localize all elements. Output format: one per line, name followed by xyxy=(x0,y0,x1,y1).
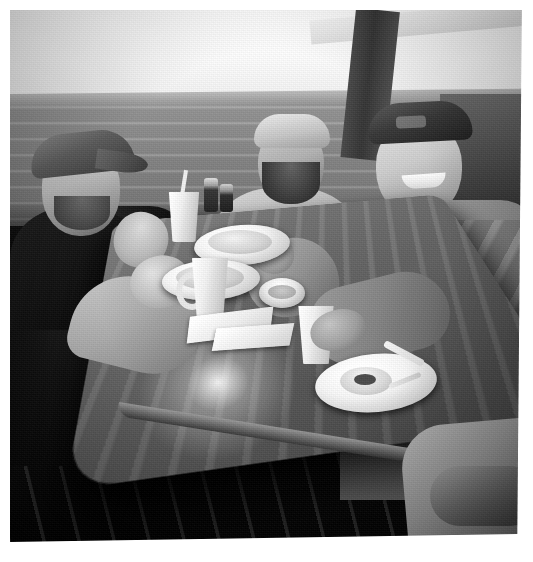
man-left-beard xyxy=(54,196,110,230)
condiment-bottle xyxy=(220,184,233,212)
plate-top-food xyxy=(208,230,272,254)
man-right-cap-logo xyxy=(396,115,427,129)
man-middle-beard xyxy=(262,162,320,204)
photograph xyxy=(10,10,528,548)
man-middle-cap xyxy=(254,114,330,148)
screenshot-canvas: Three men seated around a wooden booth t… xyxy=(0,0,533,562)
plate-right-food-hole xyxy=(354,374,376,385)
small-bowl-interior xyxy=(268,285,296,299)
condiment-bottle xyxy=(204,178,218,212)
man-right-leg-shadow xyxy=(430,466,528,526)
